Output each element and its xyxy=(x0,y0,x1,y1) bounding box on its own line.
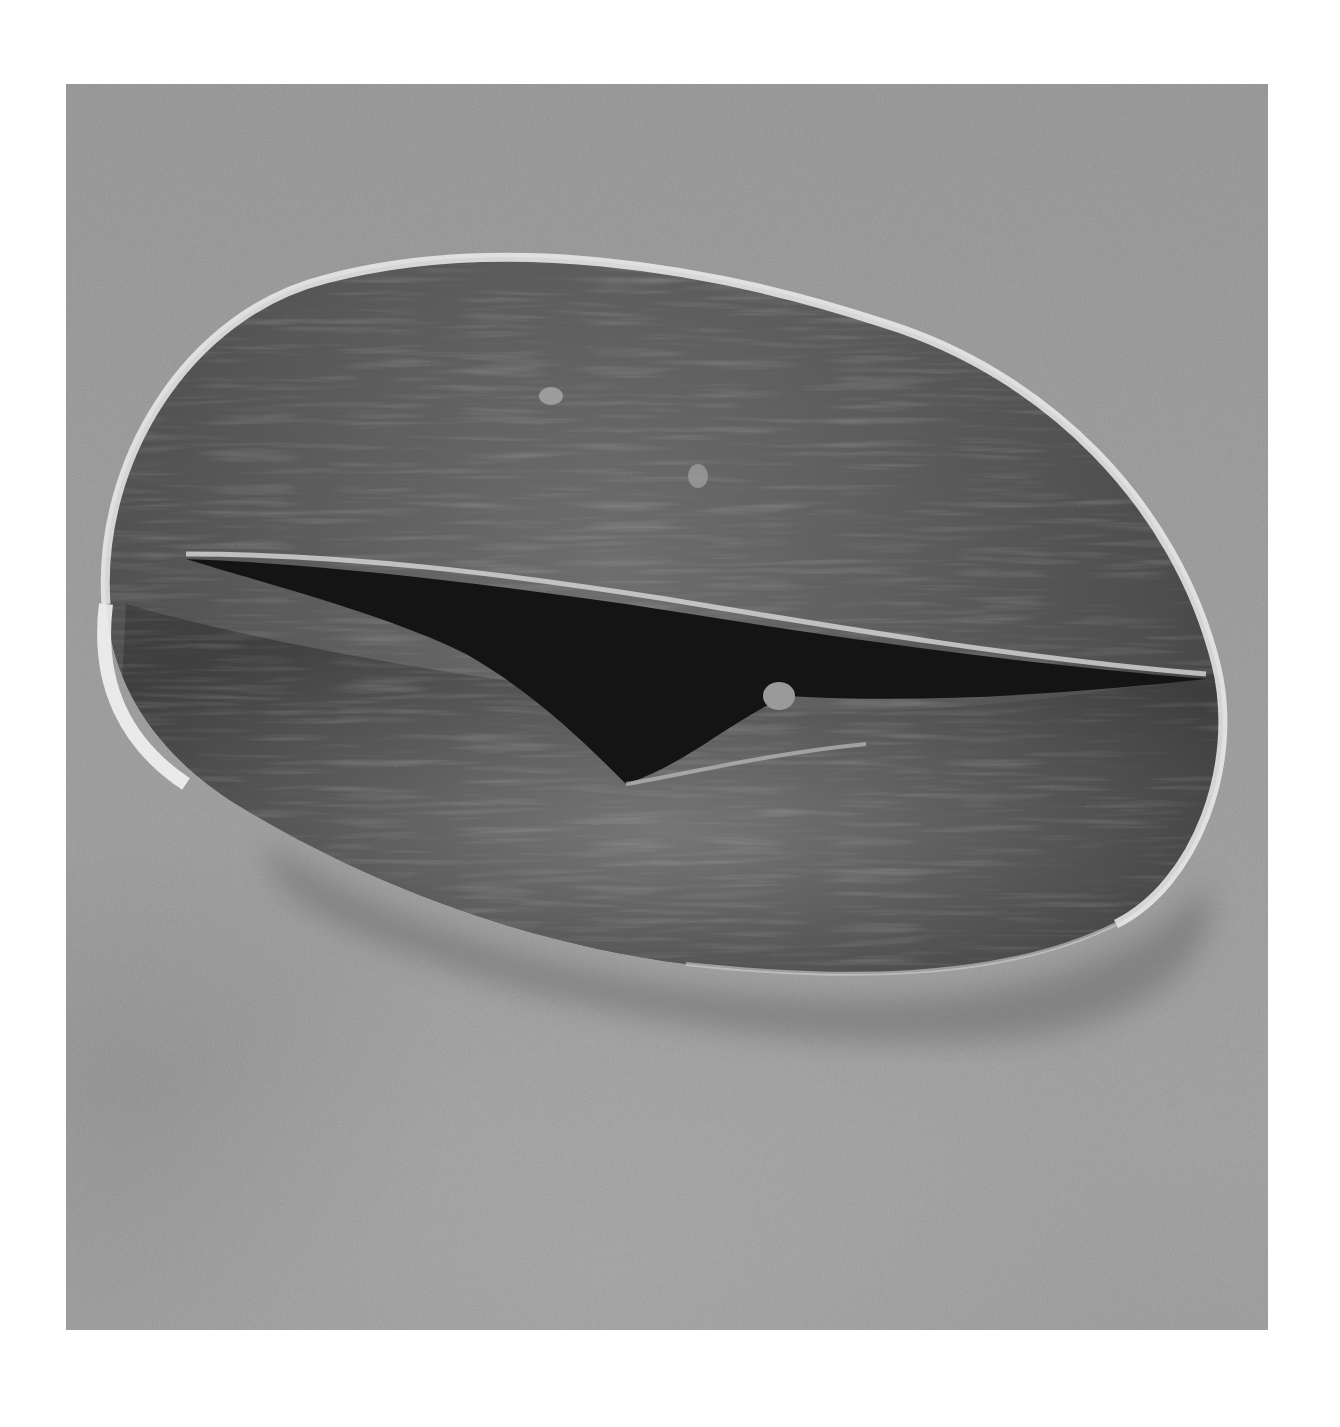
pollen-micrograph xyxy=(66,84,1268,1330)
pollen-grain-illustration xyxy=(66,84,1268,1330)
granule xyxy=(763,682,795,710)
